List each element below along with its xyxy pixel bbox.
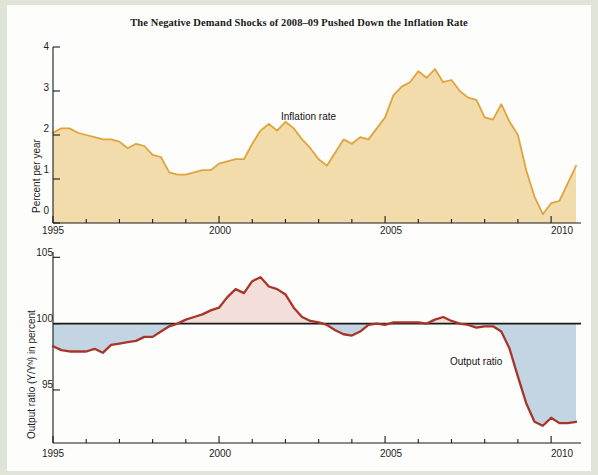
- output-xtick-2000: 2000: [204, 448, 236, 459]
- inflation-panel: Percent per year 4 3 2 1 0 1995 2000 200…: [7, 35, 591, 240]
- inflation-xtick-2005: 2005: [375, 225, 407, 236]
- inflation-xtick-1995: 1995: [37, 225, 69, 236]
- output-y-axis-title: Output ratio (Y/Yᴺ) in percent: [26, 310, 37, 439]
- figure-page: The Negative Demand Shocks of 2008–09 Pu…: [7, 5, 591, 471]
- inflation-y-axis-title: Percent per year: [31, 139, 42, 213]
- output-plot-area: [53, 252, 581, 443]
- inflation-ytick-2: 2: [31, 123, 49, 134]
- output-xtick-2005: 2005: [375, 448, 407, 459]
- figure-container: The Negative Demand Shocks of 2008–09 Pu…: [7, 5, 591, 471]
- inflation-ytick-1: 1: [31, 164, 49, 175]
- output-ytick-105: 105: [27, 247, 53, 258]
- inflation-plot-area: [53, 47, 581, 223]
- figure-title: The Negative Demand Shocks of 2008–09 Pu…: [7, 17, 591, 28]
- output-ytick-100: 100: [27, 313, 53, 324]
- inflation-xtick-2010: 2010: [546, 225, 578, 236]
- inflation-ytick-4: 4: [31, 41, 49, 52]
- output-ratio-panel: Output ratio (Y/Yᴺ) in percent 105 100 9…: [7, 243, 591, 471]
- output-ytick-95: 95: [27, 379, 53, 390]
- output-xtick-1995: 1995: [37, 448, 69, 459]
- inflation-xtick-2000: 2000: [204, 225, 236, 236]
- inflation-ytick-0: 0: [31, 205, 49, 216]
- inflation-ytick-3: 3: [31, 82, 49, 93]
- output-xtick-2010: 2010: [546, 448, 578, 459]
